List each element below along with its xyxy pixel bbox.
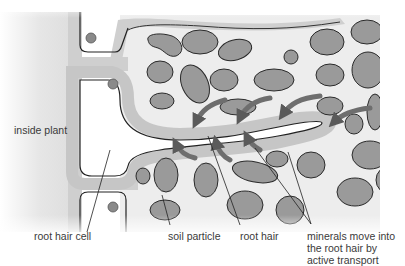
nucleus-icon (108, 202, 118, 212)
label-soil-particle: soil particle (168, 230, 221, 242)
label-minerals-line-2: the root hair by (307, 242, 395, 254)
label-minerals-line-3: active transport (307, 254, 395, 266)
nucleus-icon (108, 79, 118, 89)
nucleus-icon (86, 33, 96, 43)
label-root-hair-cell: root hair cell (34, 230, 91, 242)
label-root-hair: root hair (240, 230, 279, 242)
label-inside-plant: inside plant (14, 124, 67, 136)
label-minerals-line-1: minerals move into (307, 230, 395, 242)
label-minerals: minerals move into the root hair by acti… (307, 230, 395, 266)
